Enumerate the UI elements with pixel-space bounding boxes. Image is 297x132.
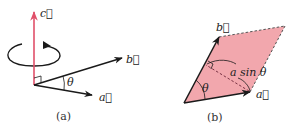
label-height: a sin θ bbox=[230, 66, 267, 79]
caption-a: (a) bbox=[56, 110, 71, 123]
label-angle-theta: θ bbox=[202, 82, 209, 95]
label-vector-a: a⃗ bbox=[256, 88, 269, 101]
panel-a: c⃗ b⃗ a⃗ θ (a) bbox=[8, 7, 140, 123]
vector-b-arrow bbox=[34, 58, 122, 85]
label-vector-c: c⃗ bbox=[40, 7, 53, 20]
right-angle-mark bbox=[34, 76, 41, 83]
parallelogram-area bbox=[184, 26, 285, 103]
vector-a-arrow bbox=[34, 85, 92, 95]
cross-product-figure: c⃗ b⃗ a⃗ θ (a) b⃗ a⃗ θ a sin θ (b) bbox=[0, 0, 297, 132]
panel-b: b⃗ a⃗ θ a sin θ (b) bbox=[184, 21, 285, 124]
label-vector-b: b⃗ bbox=[126, 53, 140, 66]
label-angle-theta: θ bbox=[67, 76, 74, 89]
label-vector-a: a⃗ bbox=[99, 91, 112, 104]
rotation-arrowhead-icon bbox=[43, 41, 51, 49]
label-vector-b: b⃗ bbox=[216, 21, 230, 34]
angle-arc bbox=[63, 76, 64, 90]
caption-b: (b) bbox=[207, 111, 223, 124]
